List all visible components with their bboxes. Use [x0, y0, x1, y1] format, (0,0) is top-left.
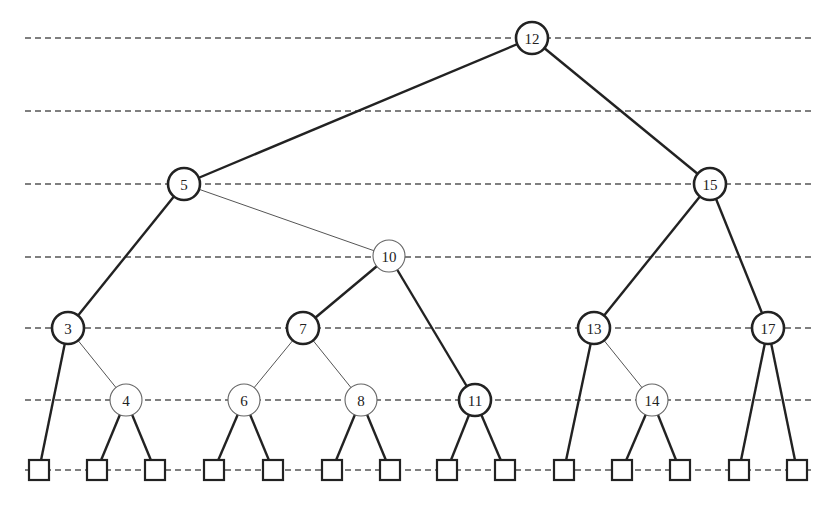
- red-black-tree-diagram: 12515103713174681114: [0, 0, 831, 505]
- tree-edges: [39, 38, 797, 470]
- nil-leaf: [145, 460, 165, 480]
- node-label: 10: [382, 249, 397, 265]
- nil-leaf: [263, 460, 283, 480]
- tree-node-8: 8: [345, 384, 377, 416]
- tree-node-6: 6: [228, 384, 260, 416]
- edge-15-13: [594, 184, 710, 328]
- nil-leaf: [322, 460, 342, 480]
- node-label: 4: [122, 393, 130, 409]
- tree-node-7: 7: [287, 312, 319, 344]
- tree-node-13: 13: [578, 312, 610, 344]
- node-label: 5: [180, 177, 188, 193]
- edge-3-L1: [39, 328, 68, 470]
- tree-node-12: 12: [516, 22, 548, 54]
- node-label: 13: [587, 321, 602, 337]
- tree-node-3: 3: [52, 312, 84, 344]
- nil-leaf: [612, 460, 632, 480]
- node-label: 8: [357, 393, 365, 409]
- tree-node-11: 11: [459, 384, 491, 416]
- nil-leaf: [670, 460, 690, 480]
- node-label: 6: [240, 393, 248, 409]
- tree-node-14: 14: [636, 384, 668, 416]
- tree-nodes: 12515103713174681114: [52, 22, 784, 416]
- tree-node-10: 10: [373, 240, 405, 272]
- nil-leaf: [787, 460, 807, 480]
- edge-17-L13: [739, 328, 768, 470]
- node-label: 15: [703, 177, 718, 193]
- nil-leaf: [495, 460, 515, 480]
- nil-leaf: [437, 460, 457, 480]
- node-label: 3: [64, 321, 72, 337]
- nil-leaf: [729, 460, 749, 480]
- node-label: 14: [645, 393, 661, 409]
- nil-leaf: [554, 460, 574, 480]
- tree-node-15: 15: [694, 168, 726, 200]
- level-lines: [25, 38, 815, 470]
- tree-node-5: 5: [168, 168, 200, 200]
- nil-leaf: [29, 460, 49, 480]
- edge-13-L10: [564, 328, 594, 470]
- edge-15-17: [710, 184, 768, 328]
- tree-node-17: 17: [752, 312, 784, 344]
- edge-10-11: [389, 256, 475, 400]
- node-label: 11: [468, 393, 482, 409]
- node-label: 7: [299, 321, 307, 337]
- nil-leaf: [87, 460, 107, 480]
- tree-node-4: 4: [110, 384, 142, 416]
- edge-5-10: [184, 184, 389, 256]
- nil-leaf: [380, 460, 400, 480]
- edge-5-3: [68, 184, 184, 328]
- node-label: 12: [525, 31, 540, 47]
- nil-leaf: [204, 460, 224, 480]
- node-label: 17: [761, 321, 777, 337]
- edge-17-L14: [768, 328, 797, 470]
